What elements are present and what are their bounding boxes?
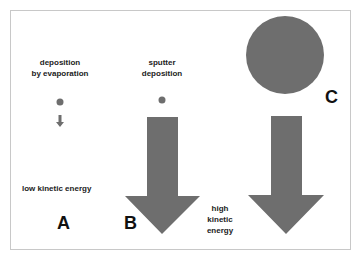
small-arrow-a-icon (56, 115, 64, 127)
letter-b: B (124, 213, 137, 234)
high-energy-label: high kinetic energy (200, 203, 240, 236)
letter-a: A (57, 213, 70, 234)
evaporation-label: deposition by evaporation (22, 57, 98, 79)
sputter-label: sputter deposition (130, 57, 194, 79)
particle-c-icon (246, 16, 324, 94)
large-arrow-c-icon (248, 116, 324, 234)
particle-a-icon (57, 99, 64, 106)
particle-b-icon (159, 97, 166, 104)
low-energy-label: low kinetic energy (22, 183, 112, 194)
diagram-graphics (0, 0, 364, 259)
letter-c: C (325, 87, 338, 108)
